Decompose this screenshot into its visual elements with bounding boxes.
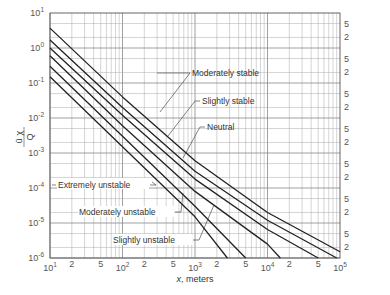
y-tick-label: 10-1 (28, 76, 44, 88)
label-text: Moderately unstable (79, 207, 156, 217)
label-text: Extremely unstable (58, 180, 131, 190)
right-axis-minor-ticks: 52525252525252 (344, 19, 349, 253)
right-tick-label: 2 (344, 172, 349, 182)
label-text: Neutral (207, 122, 235, 132)
x-tick-label: 5 (171, 259, 176, 269)
y-tick-label: 101 (30, 6, 44, 18)
right-tick-label: 5 (344, 89, 349, 99)
right-tick-label: 5 (344, 229, 349, 239)
x-tick-label: 2 (287, 259, 292, 269)
x-axis-unit: , meters (181, 274, 214, 284)
y-tick-label: 10-5 (28, 216, 44, 228)
x-tick-label: 2 (214, 259, 219, 269)
right-tick-label: 5 (344, 124, 349, 134)
dispersion-chart: 10110010-110-210-310-410-510-6 101251022… (0, 0, 390, 295)
x-tick-label: 5 (98, 259, 103, 269)
label-extremely-unstable: Extremely unstable (52, 178, 156, 190)
x-axis-ticks: 10125102251032510425105 (43, 259, 347, 273)
x-axis-title: x, meters (175, 274, 214, 284)
y-axis-title-num: ū χ (14, 131, 24, 144)
x-tick-label: 2 (142, 259, 147, 269)
y-tick-label: 100 (30, 41, 44, 53)
x-tick-label: 2 (69, 259, 74, 269)
curve-extremely-unstable (50, 77, 227, 258)
right-tick-label: 5 (344, 19, 349, 29)
x-tick-label: 103 (188, 261, 202, 273)
x-tick-label: 105 (333, 261, 347, 273)
label-text: Moderately stable (192, 68, 259, 78)
label-text: Slightly unstable (113, 235, 175, 245)
right-tick-label: 2 (344, 67, 349, 77)
y-tick-label: 10-2 (28, 111, 44, 123)
x-tick-label: 5 (316, 259, 321, 269)
right-tick-label: 2 (344, 137, 349, 147)
y-axis-title-den: Q (25, 133, 35, 140)
x-tick-label: 104 (261, 261, 275, 273)
y-axis-title: ū χ Q (14, 127, 35, 147)
y-tick-label: 10-3 (28, 146, 44, 158)
x-tick-label: 102 (116, 261, 130, 273)
right-tick-label: 2 (344, 207, 349, 217)
right-tick-label: 2 (344, 242, 349, 252)
right-tick-label: 5 (344, 54, 349, 64)
right-tick-label: 5 (344, 159, 349, 169)
right-tick-label: 2 (344, 32, 349, 42)
label-text: Slightly stable (202, 96, 255, 106)
right-tick-label: 2 (344, 102, 349, 112)
x-tick-label: 5 (243, 259, 248, 269)
right-tick-label: 5 (344, 194, 349, 204)
x-tick-label: 101 (43, 261, 57, 273)
y-tick-label: 10-4 (28, 181, 44, 193)
y-tick-label: 10-6 (28, 251, 44, 263)
